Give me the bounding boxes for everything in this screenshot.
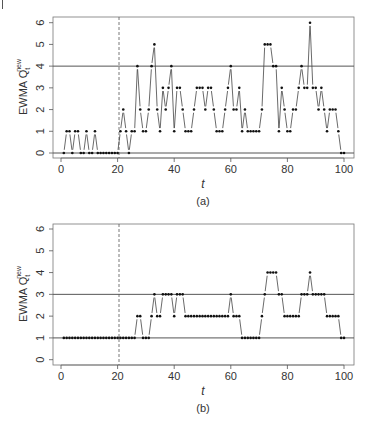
- reference-lines: [53, 224, 354, 365]
- data-point: [94, 337, 97, 340]
- y-tick-label: 4: [34, 270, 46, 276]
- x-tick-label: 20: [111, 163, 123, 175]
- data-point: [272, 65, 275, 68]
- chart-panel-a: 020406080100 0123456 EWMA Qtnew t (a): [15, 17, 354, 207]
- data-point: [142, 130, 145, 133]
- data-point: [108, 337, 111, 340]
- data-point: [179, 87, 182, 90]
- x-axis-label: t: [201, 384, 205, 398]
- data-point: [303, 87, 306, 90]
- data-point: [122, 337, 125, 340]
- data-point: [190, 315, 193, 318]
- data-point: [331, 108, 334, 111]
- panel-caption: (b): [196, 402, 209, 414]
- data-point: [85, 337, 88, 340]
- data-point: [269, 43, 272, 46]
- data-point: [331, 315, 334, 318]
- data-point: [320, 293, 323, 296]
- y-tick-label: 6: [34, 226, 46, 232]
- data-point: [323, 293, 326, 296]
- x-tick-label: 20: [111, 370, 123, 382]
- data-point: [297, 315, 300, 318]
- data-point: [221, 130, 224, 133]
- data-point: [162, 87, 165, 90]
- data-point: [136, 315, 139, 318]
- data-point: [278, 130, 281, 133]
- data-point: [164, 108, 167, 111]
- data-point: [139, 315, 142, 318]
- data-point: [80, 337, 83, 340]
- data-point: [343, 337, 346, 340]
- data-point: [88, 152, 91, 155]
- data-point: [94, 130, 97, 133]
- data-point: [263, 293, 266, 296]
- data-point: [213, 315, 216, 318]
- data-point: [306, 293, 309, 296]
- data-point: [130, 130, 133, 133]
- data-point: [235, 315, 238, 318]
- y-tick-label: 3: [34, 85, 46, 91]
- data-point: [198, 87, 201, 90]
- data-point: [176, 293, 179, 296]
- data-point: [252, 130, 255, 133]
- data-point: [297, 87, 300, 90]
- data-point: [119, 337, 122, 340]
- data-point: [230, 65, 233, 68]
- data-point: [303, 293, 306, 296]
- data-point: [289, 315, 292, 318]
- data-point: [261, 108, 264, 111]
- data-point: [337, 315, 340, 318]
- data-point: [167, 293, 170, 296]
- data-point: [232, 315, 235, 318]
- data-point: [99, 337, 102, 340]
- data-point: [300, 293, 303, 296]
- data-point: [213, 108, 216, 111]
- series-points: [63, 271, 346, 339]
- data-point: [261, 315, 264, 318]
- data-point: [283, 315, 286, 318]
- data-point: [164, 293, 167, 296]
- data-point: [80, 152, 83, 155]
- data-point: [85, 130, 88, 133]
- data-point: [82, 337, 85, 340]
- data-point: [317, 108, 320, 111]
- data-point: [187, 130, 190, 133]
- data-point: [184, 315, 187, 318]
- data-point: [312, 293, 315, 296]
- data-point: [77, 130, 80, 133]
- data-point: [71, 152, 74, 155]
- data-point: [224, 315, 227, 318]
- data-point: [343, 152, 346, 155]
- data-point: [102, 337, 105, 340]
- data-point: [326, 315, 329, 318]
- data-point: [179, 293, 182, 296]
- data-point: [156, 108, 159, 111]
- y-tick-label: 1: [34, 128, 46, 134]
- data-point: [128, 152, 131, 155]
- y-tick-label: 0: [34, 357, 46, 363]
- data-point: [130, 337, 133, 340]
- data-point: [255, 130, 258, 133]
- data-point: [309, 271, 312, 274]
- x-tick-label: 40: [168, 370, 180, 382]
- data-point: [252, 337, 255, 340]
- y-axis: 0123456: [34, 20, 53, 156]
- data-point: [204, 315, 207, 318]
- data-point: [181, 108, 184, 111]
- x-tick-label: 60: [225, 163, 237, 175]
- x-tick-label: 0: [58, 370, 64, 382]
- data-point: [133, 337, 136, 340]
- data-point: [295, 315, 298, 318]
- y-tick-label: 1: [34, 335, 46, 341]
- data-point: [74, 337, 77, 340]
- data-point: [68, 337, 71, 340]
- data-point: [255, 337, 258, 340]
- data-point: [133, 130, 136, 133]
- data-point: [108, 152, 111, 155]
- data-point: [91, 152, 94, 155]
- data-point: [317, 293, 320, 296]
- data-point: [201, 315, 204, 318]
- data-point: [153, 293, 156, 296]
- y-tick-label: 5: [34, 41, 46, 47]
- data-point: [244, 337, 247, 340]
